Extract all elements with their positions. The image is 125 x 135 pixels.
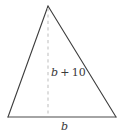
base-label: b bbox=[61, 121, 68, 132]
height-label-variable: b bbox=[51, 66, 58, 79]
triangle-figure: b + 10 b bbox=[0, 0, 125, 135]
triangle-right-edge bbox=[48, 6, 116, 117]
height-label-constant: 10 bbox=[72, 66, 86, 79]
base-label-variable: b bbox=[61, 120, 68, 133]
height-label: b + 10 bbox=[51, 67, 86, 78]
triangle-left-edge bbox=[8, 6, 48, 117]
